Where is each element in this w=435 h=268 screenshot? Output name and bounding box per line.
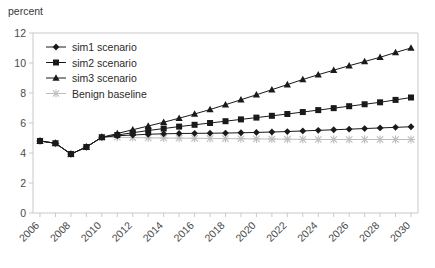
- y-tick-label-0: 0: [20, 207, 26, 219]
- legend-label: Benign baseline: [72, 88, 147, 100]
- y-tick-label-2: 4: [20, 147, 26, 159]
- y-tick-label-4: 8: [20, 87, 26, 99]
- legend-label: sim2 scenario: [72, 57, 137, 69]
- legend-label: sim3 scenario: [72, 72, 137, 84]
- chart-container: 024681012 200620082010201220142016201820…: [0, 0, 435, 268]
- y-tick-label-5: 10: [14, 57, 26, 69]
- y-axis-title: percent: [8, 5, 43, 17]
- y-tick-label-3: 6: [20, 117, 26, 129]
- y-tick-label-1: 2: [20, 177, 26, 189]
- y-tick-label-6: 12: [14, 27, 26, 39]
- line-chart: 024681012 200620082010201220142016201820…: [0, 0, 435, 268]
- legend-label: sim1 scenario: [72, 41, 137, 53]
